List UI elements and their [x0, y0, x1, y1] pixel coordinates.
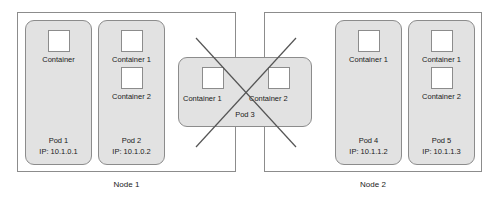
pod-ip-label: IP: 10.1.0.1	[26, 147, 91, 157]
pod-pod-5: Container 1 Container 2 Pod 5 IP: 10.1.1…	[408, 20, 475, 165]
pod-pod-2: Container 1 Container 2 Pod 2 IP: 10.1.0…	[98, 20, 165, 165]
container-label: Container 1	[336, 55, 401, 64]
container-label: Container 2	[99, 92, 164, 101]
pod-name-label: Pod 5	[409, 136, 474, 146]
container-square	[358, 30, 380, 52]
node-label-node-2: Node 2	[264, 180, 482, 189]
pod-pod-4: Container 1 Pod 4 IP: 10.1.1.2	[335, 20, 402, 165]
container-label: Container 1	[409, 55, 474, 64]
container-label: Container 2	[249, 94, 288, 103]
diagram-canvas: Container Pod 1 IP: 10.1.0.1 Container 1…	[0, 0, 500, 199]
pod-pod-3: Container 1 Container 2 Pod 3	[178, 57, 312, 127]
pod-name-label: Pod 2	[99, 136, 164, 146]
container-square	[48, 30, 70, 52]
container-label: Container	[26, 55, 91, 64]
container-square	[202, 67, 224, 89]
pod-ip-label: IP: 10.1.1.3	[409, 147, 474, 157]
container-square	[431, 30, 453, 52]
container-square	[121, 67, 143, 89]
pod-name-label: Pod 1	[26, 136, 91, 146]
pod-pod-1: Container Pod 1 IP: 10.1.0.1	[25, 20, 92, 165]
pod-name-label: Pod 4	[336, 136, 401, 146]
pod-ip-label: IP: 10.1.0.2	[99, 147, 164, 157]
pod-ip-label: IP: 10.1.1.2	[336, 147, 401, 157]
container-label: Container 2	[409, 92, 474, 101]
container-square	[121, 30, 143, 52]
pod-name-label: Pod 3	[179, 110, 311, 119]
container-label: Container 1	[183, 94, 222, 103]
node-label-node-1: Node 1	[17, 180, 236, 189]
container-label: Container 1	[99, 55, 164, 64]
container-square	[431, 67, 453, 89]
container-square	[268, 67, 290, 89]
